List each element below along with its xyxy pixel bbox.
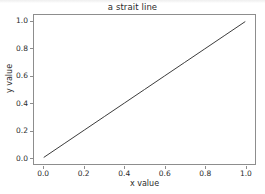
x-tick-label: 1.0 bbox=[226, 169, 265, 178]
y-tick-mark bbox=[30, 21, 33, 22]
y-axis-label: y value bbox=[5, 49, 14, 109]
x-tick-label: 0.6 bbox=[145, 169, 185, 178]
x-tick-label: 0.4 bbox=[104, 169, 144, 178]
chart-title: a strait line bbox=[0, 2, 265, 12]
y-tick-mark bbox=[30, 103, 33, 104]
line-series-svg bbox=[34, 15, 255, 164]
data-line-y-equals-x bbox=[44, 22, 245, 157]
y-tick-mark bbox=[30, 76, 33, 77]
y-tick-label: 0.0 bbox=[0, 154, 28, 163]
x-axis-label: x value bbox=[33, 179, 256, 188]
x-tick-label: 0.0 bbox=[23, 169, 63, 178]
y-tick-mark bbox=[30, 131, 33, 132]
x-tick-label: 0.8 bbox=[185, 169, 225, 178]
figure-canvas: a strait line 0.00.20.40.60.81.0 0.00.20… bbox=[0, 0, 265, 194]
plot-area bbox=[33, 14, 256, 165]
x-tick-label: 0.2 bbox=[64, 169, 104, 178]
y-tick-mark bbox=[30, 158, 33, 159]
y-tick-label: 1.0 bbox=[0, 16, 28, 25]
y-tick-label: 0.2 bbox=[0, 126, 28, 135]
y-tick-mark bbox=[30, 48, 33, 49]
